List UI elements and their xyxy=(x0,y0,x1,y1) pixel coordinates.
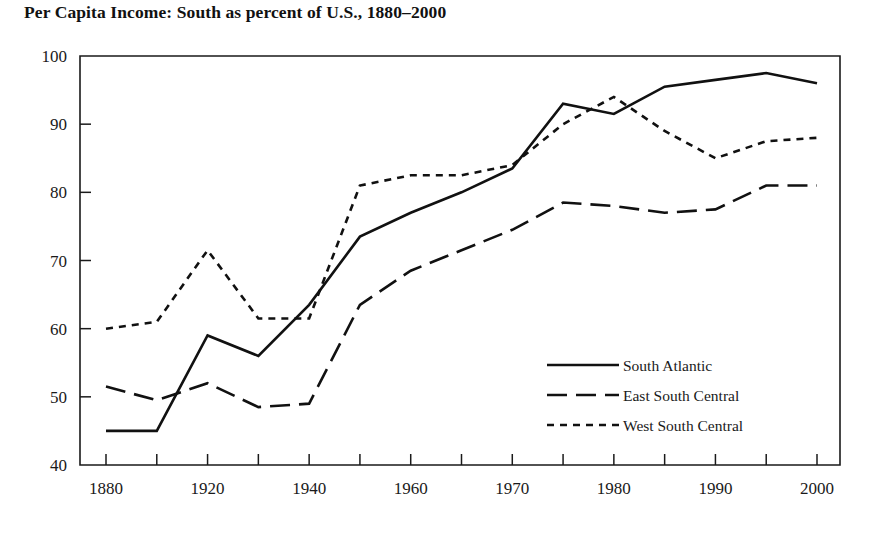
plot-area: 100908070605040 188019201940196019701980… xyxy=(0,0,881,536)
x-tick-label: 1990 xyxy=(698,479,732,498)
y-tick-label: 60 xyxy=(50,320,67,339)
legend-label: South Atlantic xyxy=(623,357,712,374)
legend-label: West South Central xyxy=(623,417,743,434)
x-axis-labels: 18801920194019601970198019902000 xyxy=(89,479,834,498)
y-tick-label: 90 xyxy=(50,115,67,134)
chart-figure: Per Capita Income: South as percent of U… xyxy=(0,0,881,536)
x-tick-label: 1970 xyxy=(495,479,529,498)
chart-legend: South AtlanticEast South CentralWest Sou… xyxy=(547,357,743,434)
x-tick-label: 1980 xyxy=(597,479,631,498)
y-tick-label: 70 xyxy=(50,252,67,271)
series-line-south-atlantic xyxy=(106,73,817,431)
y-axis-labels: 100908070605040 xyxy=(42,47,68,475)
y-axis-ticks xyxy=(80,124,91,397)
x-tick-label: 2000 xyxy=(800,479,834,498)
plot-frame xyxy=(80,56,840,465)
y-tick-label: 40 xyxy=(50,456,67,475)
data-series-group xyxy=(106,73,817,431)
y-tick-label: 50 xyxy=(50,388,67,407)
y-tick-label: 100 xyxy=(42,47,68,66)
x-tick-label: 1940 xyxy=(292,479,326,498)
x-axis-ticks xyxy=(106,454,817,465)
y-tick-label: 80 xyxy=(50,183,67,202)
series-line-west-south-central xyxy=(106,97,817,329)
legend-label: East South Central xyxy=(623,387,739,404)
line-chart-svg: 100908070605040 188019201940196019701980… xyxy=(0,0,881,536)
x-tick-label: 1920 xyxy=(191,479,225,498)
series-line-east-south-central xyxy=(106,186,817,408)
x-tick-label: 1880 xyxy=(89,479,123,498)
x-tick-label: 1960 xyxy=(394,479,428,498)
